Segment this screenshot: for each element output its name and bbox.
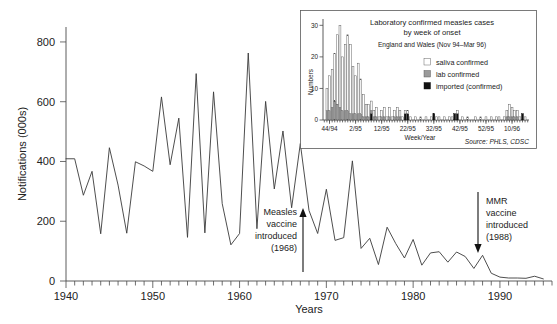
inset-x-axis-title: Week/Year (405, 134, 437, 141)
main-x-tick-label: 1980 (401, 290, 425, 302)
inset-subtitle: England and Wales (Nov 94–Mar 96) (378, 41, 486, 49)
inset-bar-saliva (368, 104, 370, 117)
inset-bar-lab (331, 107, 333, 120)
inset-bar-lab (349, 114, 351, 120)
inset-bar-saliva (344, 44, 346, 110)
inset-title-line2: by week of onset (404, 28, 462, 37)
inset-bar-saliva (336, 35, 338, 104)
inset-bar-lab (360, 114, 362, 120)
main-y-tick-label: 0 (49, 275, 55, 287)
inset-bar-imported (456, 114, 458, 120)
mmr-vaccine-label-line3: introduced (486, 220, 528, 230)
inset-bar-saliva (516, 111, 518, 117)
inset-bar-saliva (365, 104, 367, 117)
inset-bar-saliva (514, 111, 516, 117)
inset-bar-saliva (467, 117, 469, 120)
legend-swatch-lab-icon (424, 71, 431, 78)
measles-vaccine-label-line3: introduced (255, 231, 297, 241)
inset-bar-saliva (420, 117, 422, 120)
inset-bar-lab (357, 114, 359, 120)
inset-bar-imported (433, 114, 435, 120)
mmr-vaccine-label-line4: (1988) (486, 232, 512, 242)
chart-canvas: 0200400600800 194019501960197019801990 N… (0, 0, 557, 324)
main-x-tick-label: 1950 (141, 290, 165, 302)
inset-x-tick-label: 12/95 (374, 125, 390, 132)
inset-bar-saliva (326, 88, 328, 110)
inset-bar-saliva (376, 107, 378, 116)
inset-bar-lab (399, 117, 401, 120)
inset-bar-saliva (480, 117, 482, 120)
inset-title-line1: Laboratory confirmed measles cases (370, 18, 494, 27)
inset-bar-lab (329, 111, 331, 120)
inset-bar-lab (394, 117, 396, 120)
inset-bar-saliva (462, 117, 464, 120)
inset-bar-saliva (386, 117, 388, 120)
inset-bar-saliva (425, 117, 427, 120)
measles-vaccine-label-line1: Measles (263, 207, 297, 217)
inset-bar-lab (509, 117, 511, 120)
inset-bar-saliva (475, 117, 477, 120)
main-y-tick-label: 400 (37, 155, 55, 167)
inset-bar-lab (336, 104, 338, 120)
inset-x-tick-label: 10/96 (504, 125, 520, 132)
inset-bar-lab (511, 117, 513, 120)
inset-bar-saliva (355, 76, 357, 114)
inset-bar-lab (396, 117, 398, 120)
inset-bar-saliva (370, 101, 372, 110)
inset-bar-saliva (339, 25, 341, 107)
inset-x-tick-label: 42/95 (452, 125, 468, 132)
inset-bar-lab (339, 107, 341, 120)
inset-bar-lab (514, 117, 516, 120)
inset-x-tick-label: 44/94 (322, 125, 338, 132)
inset-bar-saliva (391, 117, 393, 120)
inset-bar-lab (389, 117, 391, 120)
measles-vaccine-label-line2: vaccine (266, 219, 297, 229)
inset-bar-saliva (495, 117, 497, 120)
inset-bar-lab (370, 111, 372, 114)
inset-x-tick-label: 2/95 (349, 125, 362, 132)
inset-bar-lab (373, 117, 375, 120)
legend-swatch-imported-icon (424, 83, 431, 90)
inset-bar-saliva (389, 107, 391, 116)
inset-bar-saliva (373, 111, 375, 117)
inset-bar-imported (370, 114, 372, 120)
main-x-axis-title: Years (295, 303, 323, 315)
inset-bar-saliva (349, 44, 351, 113)
inset-bar-saliva (396, 107, 398, 116)
inset-bar-saliva (394, 111, 396, 117)
inset-bar-saliva (490, 117, 492, 120)
inset-bar-saliva (519, 117, 521, 120)
inset-bar-saliva (378, 117, 380, 120)
main-x-tick-label: 1960 (227, 290, 251, 302)
main-y-axis-title: Notifications (000s) (16, 107, 28, 201)
inset-bar-saliva (347, 35, 349, 111)
inset-bar-saliva (435, 117, 437, 120)
measles-vaccine-label-line4: (1968) (271, 243, 297, 253)
main-y-tick-label: 800 (37, 36, 55, 48)
main-x-tick-label: 1990 (488, 290, 512, 302)
legend-label-lab: lab confirmed (436, 70, 479, 79)
inset-bar-saliva (485, 117, 487, 120)
inset-bar-saliva (329, 76, 331, 111)
inset-bar-lab (516, 117, 518, 120)
inset-bar-saliva (511, 107, 513, 116)
inset-bar-saliva (438, 117, 440, 120)
legend-swatch-saliva-icon (424, 59, 431, 66)
inset-panel: Laboratory confirmed measles cases by we… (301, 11, 537, 149)
inset-bar-lab (344, 111, 346, 120)
main-x-tick-label: 1940 (54, 290, 78, 302)
inset-bar-lab (506, 117, 508, 120)
inset-bar-saliva (409, 117, 411, 120)
inset-bar-saliva (407, 111, 409, 114)
inset-x-tick-label: 52/95 (478, 125, 494, 132)
inset-bar-lab (347, 111, 349, 120)
inset-x-tick-label: 32/95 (426, 125, 442, 132)
inset-bar-lab (362, 117, 364, 120)
inset-bar-lab (334, 101, 336, 120)
inset-bar-saliva (503, 117, 505, 120)
inset-bar-imported (522, 114, 524, 120)
inset-bar-lab (352, 114, 354, 120)
inset-bar-saliva (506, 111, 508, 117)
inset-bar-saliva (381, 111, 383, 117)
inset-y-tick-label: 30 (311, 22, 319, 29)
